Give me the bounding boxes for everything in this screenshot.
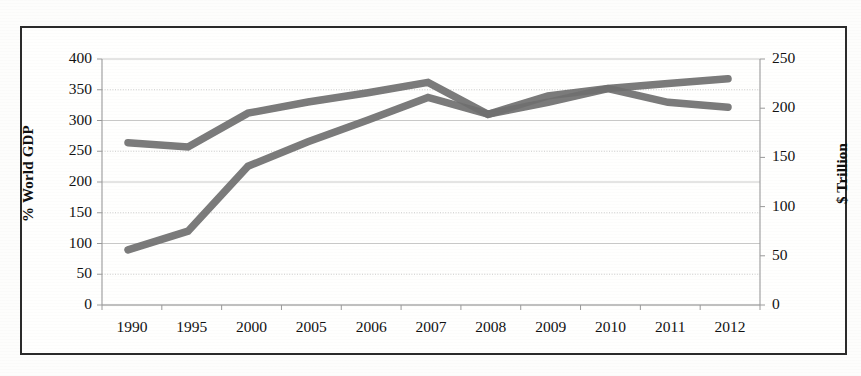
left-tick-label: 100 bbox=[44, 234, 92, 252]
x-tick-label: 1990 bbox=[101, 318, 163, 336]
right-tick-label: 200 bbox=[772, 98, 820, 116]
x-tick-label: 2012 bbox=[699, 318, 761, 336]
bottom-axis-tick-marks bbox=[102, 305, 760, 310]
left-axis-title: % World GDP bbox=[20, 99, 37, 249]
right-tick-label: 50 bbox=[772, 246, 820, 264]
right-tick-label: 0 bbox=[772, 295, 820, 313]
x-tick-label: 2006 bbox=[340, 318, 402, 336]
x-tick-label: 1995 bbox=[161, 318, 223, 336]
left-tick-label: 50 bbox=[44, 264, 92, 282]
left-tick-label: 250 bbox=[44, 141, 92, 159]
x-tick-label: 2011 bbox=[639, 318, 701, 336]
x-tick-label: 2009 bbox=[520, 318, 582, 336]
left-tick-label: 150 bbox=[44, 203, 92, 221]
series-line-1 bbox=[128, 79, 728, 147]
chart-figure: % World GDP $ Trillion 40035030025020015… bbox=[0, 0, 861, 376]
x-tick-label: 2008 bbox=[460, 318, 522, 336]
x-tick-label: 2007 bbox=[400, 318, 462, 336]
left-tick-label: 300 bbox=[44, 111, 92, 129]
x-tick-label: 2005 bbox=[280, 318, 342, 336]
right-axis-tick-marks bbox=[760, 59, 765, 305]
left-tick-label: 0 bbox=[44, 295, 92, 313]
data-series-lines bbox=[128, 79, 728, 250]
right-tick-label: 150 bbox=[772, 147, 820, 165]
x-tick-label: 2000 bbox=[221, 318, 283, 336]
left-axis-tick-marks bbox=[97, 59, 102, 305]
right-axis-title: $ Trillion bbox=[834, 94, 851, 254]
series-line-2 bbox=[128, 89, 728, 250]
left-tick-label: 200 bbox=[44, 172, 92, 190]
x-tick-label: 2010 bbox=[579, 318, 641, 336]
right-tick-label: 250 bbox=[772, 49, 820, 67]
left-tick-label: 400 bbox=[44, 49, 92, 67]
left-tick-label: 350 bbox=[44, 80, 92, 98]
right-tick-label: 100 bbox=[772, 197, 820, 215]
